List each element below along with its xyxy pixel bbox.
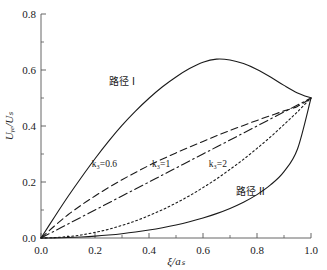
y-tick-label: 0.6 (22, 64, 36, 76)
y-tick-label: 0.8 (22, 8, 36, 20)
figure-container: 0.00.20.40.60.81.0 0.00.20.40.60.8 路径 Ik… (0, 0, 327, 270)
path-annotation: 路径 I (109, 75, 135, 87)
y-tick-label: 0.0 (22, 232, 36, 244)
axis-spines (41, 14, 311, 238)
k-value-annotation: k₃=2 (209, 159, 227, 169)
path-annotation: 路径 II (236, 185, 265, 197)
data-curves (41, 59, 311, 238)
x-axis-ticks: 0.00.20.40.60.81.0 (34, 233, 318, 256)
line-chart: 0.00.20.40.60.81.0 0.00.20.40.60.8 路径 Ik… (0, 0, 327, 270)
y-axis-ticks: 0.00.20.40.60.8 (22, 8, 46, 244)
x-tick-label: 1.0 (304, 244, 318, 256)
x-tick-label: 0.8 (250, 244, 264, 256)
y-tick-label: 0.2 (22, 176, 36, 188)
data-curve (41, 59, 311, 238)
data-curve (41, 98, 311, 238)
axes (41, 14, 311, 238)
x-tick-label: 0.6 (196, 244, 210, 256)
x-tick-label: 0.0 (34, 244, 48, 256)
x-axis-title: ξ/aₛ (167, 255, 185, 268)
x-tick-label: 0.2 (88, 244, 102, 256)
x-tick-label: 0.4 (142, 244, 156, 256)
k-value-annotation: k₃=1 (152, 159, 170, 169)
curve-annotations: 路径 Ik₃=0.6k₃=1k₃=2路径 II (92, 75, 265, 196)
y-axis-title: Uᵧₑ/Uₛ (3, 111, 15, 140)
y-tick-label: 0.4 (22, 120, 36, 132)
k-value-annotation: k₃=0.6 (92, 159, 118, 169)
